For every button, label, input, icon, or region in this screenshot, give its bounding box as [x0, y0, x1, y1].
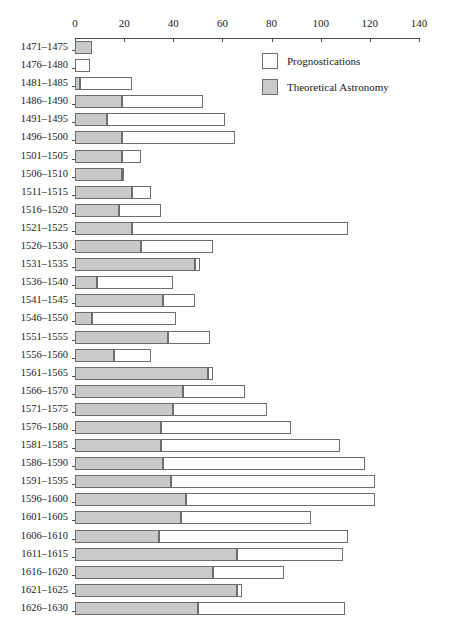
stacked-bar-chart: 020406080100120140 1471–14751476–1480148… [0, 0, 449, 642]
chart-row: 1566–1570 [0, 382, 449, 400]
chart-row: 1561–1565 [0, 364, 449, 382]
category-label: 1586–1590 [0, 454, 68, 472]
bar-segment-theoretical-astronomy [75, 240, 141, 253]
bar-segment-theoretical-astronomy [75, 331, 168, 344]
legend-label: Theoretical Astronomy [287, 81, 389, 93]
chart-row: 1571–1575 [0, 400, 449, 418]
bar-segment-prognostications [237, 584, 242, 597]
bar-segment-theoretical-astronomy [75, 475, 171, 488]
bar-segment-prognostications [163, 457, 364, 470]
category-label: 1471–1475 [0, 38, 68, 56]
x-axis-tick-label: 120 [362, 18, 379, 29]
chart-row: 1516–1520 [0, 201, 449, 219]
chart-row: 1611–1615 [0, 545, 449, 563]
category-label: 1491–1495 [0, 110, 68, 128]
bar-segment-theoretical-astronomy [75, 403, 173, 416]
bar-segment-theoretical-astronomy [75, 367, 208, 380]
chart-row: 1511–1515 [0, 183, 449, 201]
bar-segment-prognostications [181, 511, 311, 524]
bar-segment-theoretical-astronomy [75, 493, 186, 506]
x-axis-tick-label: 60 [217, 18, 228, 29]
bar-segment-prognostications [213, 566, 284, 579]
bar-segment-theoretical-astronomy [75, 312, 92, 325]
chart-row: 1606–1610 [0, 527, 449, 545]
bar-segment-prognostications [186, 493, 375, 506]
legend-swatch-theory [262, 79, 278, 95]
bar-segment-theoretical-astronomy [75, 421, 161, 434]
bar-segment-theoretical-astronomy [75, 566, 213, 579]
category-label: 1476–1480 [0, 56, 68, 74]
chart-row: 1621–1625 [0, 581, 449, 599]
chart-row: 1576–1580 [0, 418, 449, 436]
x-axis-tick-label: 40 [168, 18, 179, 29]
bar-segment-prognostications [132, 222, 348, 235]
bar-segment-prognostications [107, 113, 225, 126]
bar-segment-prognostications [132, 186, 152, 199]
bar-segment-theoretical-astronomy [75, 222, 132, 235]
bar-segment-theoretical-astronomy [75, 258, 195, 271]
bar-segment-prognostications [141, 240, 212, 253]
bar-segment-theoretical-astronomy [75, 457, 163, 470]
chart-row: 1551–1555 [0, 328, 449, 346]
chart-row: 1491–1495 [0, 110, 449, 128]
x-axis: 020406080100120140 [0, 0, 449, 42]
x-axis-tick-label: 100 [312, 18, 329, 29]
bar-segment-theoretical-astronomy [75, 276, 97, 289]
legend-item: Prognostications [262, 48, 442, 74]
category-label: 1571–1575 [0, 400, 68, 418]
category-label: 1516–1520 [0, 201, 68, 219]
category-label: 1566–1570 [0, 382, 68, 400]
chart-row: 1596–1600 [0, 490, 449, 508]
bar-segment-prognostications [198, 602, 345, 615]
chart-row: 1601–1605 [0, 508, 449, 526]
x-axis-tick-label: 20 [119, 18, 130, 29]
bar-segment-theoretical-astronomy [75, 131, 122, 144]
chart-row: 1541–1545 [0, 291, 449, 309]
bar-segment-theoretical-astronomy [75, 511, 181, 524]
bar-segment-prognostications [122, 131, 235, 144]
chart-row: 1526–1530 [0, 237, 449, 255]
chart-row: 1556–1560 [0, 346, 449, 364]
bar-segment-prognostications [195, 258, 200, 271]
bar-segment-theoretical-astronomy [75, 602, 198, 615]
bar-segment-prognostications [122, 150, 142, 163]
category-label: 1606–1610 [0, 527, 68, 545]
bar-segment-prognostications [159, 530, 348, 543]
bar-segment-prognostications [163, 294, 195, 307]
bar-segment-theoretical-astronomy [75, 294, 163, 307]
category-label: 1576–1580 [0, 418, 68, 436]
category-label: 1551–1555 [0, 328, 68, 346]
bar-segment-prognostications [92, 312, 176, 325]
chart-row: 1531–1535 [0, 255, 449, 273]
category-label: 1546–1550 [0, 309, 68, 327]
chart-row: 1506–1510 [0, 165, 449, 183]
bar-segment-prognostications [97, 276, 173, 289]
x-axis-tick-label: 140 [411, 18, 428, 29]
category-label: 1581–1585 [0, 436, 68, 454]
bar-segment-theoretical-astronomy [75, 439, 161, 452]
bar-segment-theoretical-astronomy [75, 548, 237, 561]
chart-row: 1521–1525 [0, 219, 449, 237]
bar-segment-theoretical-astronomy [75, 530, 159, 543]
bar-segment-prognostications [122, 95, 203, 108]
category-label: 1601–1605 [0, 508, 68, 526]
chart-row: 1616–1620 [0, 563, 449, 581]
bar-segment-theoretical-astronomy [75, 77, 80, 90]
category-label: 1511–1515 [0, 183, 68, 201]
category-label: 1486–1490 [0, 92, 68, 110]
category-label: 1541–1545 [0, 291, 68, 309]
bar-segment-theoretical-astronomy [75, 168, 122, 181]
bar-segment-prognostications [80, 77, 132, 90]
bar-segment-prognostications [171, 475, 375, 488]
bar-segment-prognostications [119, 204, 161, 217]
legend-item: Theoretical Astronomy [262, 74, 442, 100]
bar-segment-prognostications [168, 331, 210, 344]
category-label: 1501–1505 [0, 147, 68, 165]
bar-segment-prognostications [114, 349, 151, 362]
bar-segment-theoretical-astronomy [75, 41, 92, 54]
bar-segment-prognostications [161, 439, 340, 452]
category-label: 1621–1625 [0, 581, 68, 599]
plot-area: 1471–14751476–14801481–14851486–14901491… [0, 38, 449, 642]
chart-row: 1536–1540 [0, 273, 449, 291]
category-label: 1506–1510 [0, 165, 68, 183]
